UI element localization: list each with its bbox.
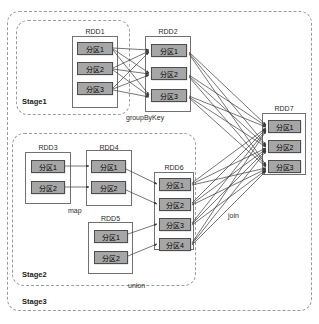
rdd-title-rdd6: RDD6: [154, 164, 194, 171]
rdd-title-rdd1: RDD1: [72, 28, 118, 35]
partition-rdd6-p4: 分区4: [159, 238, 191, 251]
operation-label-join: join: [228, 212, 239, 219]
partition-rdd2-p1: 分区1: [151, 44, 187, 57]
partition-rdd7-p2: 分区2: [268, 140, 301, 153]
partition-rdd7-p3: 分区3: [268, 160, 301, 173]
stage-label-stage3: Stage3: [22, 297, 47, 306]
partition-rdd6-p1: 分区1: [159, 178, 191, 191]
rdd-title-rdd7: RDD7: [262, 105, 306, 112]
partition-rdd5-p2: 分区2: [94, 251, 128, 264]
operation-label-map: map: [68, 207, 82, 214]
partition-rdd1-p3: 分区3: [77, 82, 113, 95]
partition-rdd4-p2: 分区2: [91, 181, 126, 194]
partition-rdd2-p2: 分区2: [151, 67, 187, 80]
rdd-title-rdd3: RDD3: [25, 144, 71, 151]
partition-rdd3-p1: 分区1: [31, 160, 65, 173]
partition-rdd1-p2: 分区2: [77, 62, 113, 75]
partition-rdd5-p1: 分区1: [94, 230, 128, 243]
partition-rdd2-p3: 分区3: [151, 89, 187, 102]
partition-rdd3-p2: 分区2: [31, 181, 65, 194]
operation-label-union: union: [128, 282, 145, 289]
partition-rdd1-p1: 分区1: [77, 42, 113, 55]
partition-rdd6-p2: 分区2: [159, 198, 191, 211]
partition-rdd4-p1: 分区1: [91, 160, 126, 173]
rdd-stage-diagram: Stage1Stage2Stage3 RDD1分区1分区2分区3RDD2分区1分…: [0, 0, 319, 324]
partition-rdd6-p3: 分区3: [159, 218, 191, 231]
rdd-container-rdd4: [86, 150, 132, 206]
operation-label-groupByKey: groupByKey: [126, 114, 164, 121]
partition-rdd7-p1: 分区1: [268, 120, 301, 133]
rdd-title-rdd5: RDD5: [88, 215, 133, 222]
rdd-title-rdd2: RDD2: [145, 28, 191, 35]
